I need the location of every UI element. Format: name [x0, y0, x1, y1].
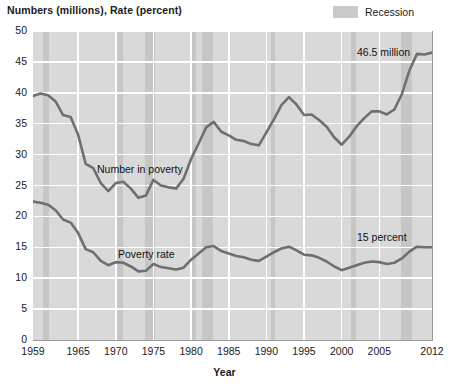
x-axis-tick-label: 1965: [58, 345, 98, 357]
y-axis-tick-label: 35: [3, 117, 27, 129]
data-lines: [33, 31, 432, 340]
x-axis-tick-label: 1959: [13, 345, 53, 357]
series-label-poverty-rate: Poverty rate: [118, 248, 175, 260]
y-axis-tick-label: 30: [3, 148, 27, 160]
x-axis-tick-label: 1980: [171, 345, 211, 357]
chart-legend: Recession: [333, 6, 414, 18]
y-axis-tick-label: 15: [3, 240, 27, 252]
x-axis-tick-label: 2000: [322, 345, 362, 357]
y-axis-tick-label: 45: [3, 55, 27, 67]
y-axis-tick-label: 20: [3, 209, 27, 221]
end-label-number-in-poverty: 46.5 million: [357, 46, 410, 58]
y-axis-tick-label: 5: [3, 302, 27, 314]
recession-legend-label: Recession: [365, 6, 414, 18]
y-axis-tick-label: 25: [3, 179, 27, 191]
plot-area: [33, 31, 432, 340]
y-axis-tick-label: 40: [3, 86, 27, 98]
end-label-poverty-rate: 15 percent: [357, 231, 407, 243]
chart-container: Numbers (millions), Rate (percent) Reces…: [0, 0, 449, 389]
recession-legend-swatch: [333, 6, 358, 18]
x-axis-tick-label: 2012: [412, 345, 449, 357]
y-axis-tick-label: 50: [3, 24, 27, 36]
x-axis-tick-label: 1990: [246, 345, 286, 357]
y-axis-tick-label: 0: [3, 333, 27, 345]
x-axis-tick-label: 1970: [96, 345, 136, 357]
x-axis-tick-label: 1995: [284, 345, 324, 357]
x-axis-title: Year: [0, 366, 449, 378]
x-axis-tick-label: 1975: [133, 345, 173, 357]
line-number-in-poverty: [33, 53, 432, 198]
series-label-number-in-poverty: Number in poverty: [97, 163, 183, 175]
x-axis-tick-label: 2005: [359, 345, 399, 357]
x-axis-tick-label: 1985: [209, 345, 249, 357]
chart-title: Numbers (millions), Rate (percent): [7, 4, 182, 16]
y-axis-tick-label: 10: [3, 271, 27, 283]
